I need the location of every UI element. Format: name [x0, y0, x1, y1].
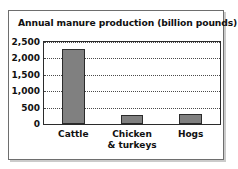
chart-figure: Annual manure production (billion pounds… [8, 10, 224, 160]
x-axis-label-line: Chicken [112, 129, 152, 139]
y-axis-tick-label: 2,500 [12, 37, 40, 47]
chart-title: Annual manure production (billion pounds… [18, 17, 232, 28]
x-axis-label-line: Hogs [178, 129, 204, 139]
y-axis-tick-label: 1,500 [12, 70, 40, 80]
x-axis-label-line: & turkeys [107, 140, 156, 151]
y-axis-tick-label: 1,000 [12, 86, 40, 96]
bar [62, 49, 85, 124]
bar [121, 115, 144, 124]
y-axis-tick-label: 500 [21, 103, 40, 113]
x-axis-category-label: Chicken& turkeys [107, 129, 156, 151]
x-axis-category-label: Cattle [58, 129, 88, 140]
x-axis-category-label: Hogs [178, 129, 204, 140]
y-axis-tick-label: 2,000 [12, 53, 40, 63]
gridline [44, 42, 220, 43]
bar [179, 114, 202, 124]
y-axis-tick-label: 0 [34, 119, 40, 129]
x-axis-label-line: Cattle [58, 129, 88, 139]
plot-area: 05001,0001,5002,0002,500 CattleChicken& … [43, 41, 221, 125]
